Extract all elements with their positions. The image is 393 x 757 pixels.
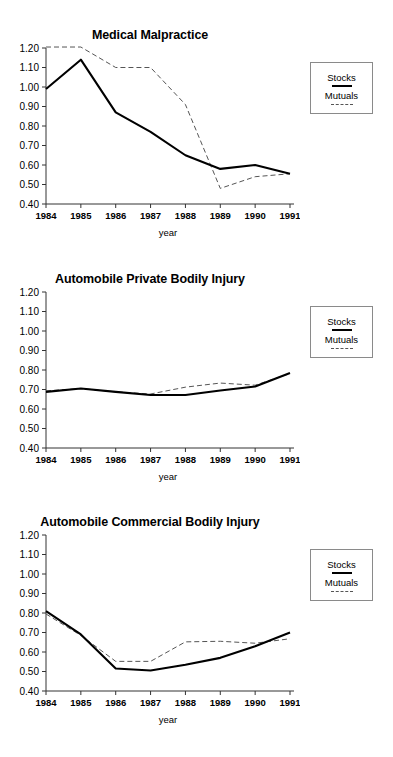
legend-label-stocks: Stocks bbox=[327, 559, 356, 570]
x-axis-tick-label: 1989 bbox=[210, 697, 231, 708]
chart-block-medical-malpractice: Medical Malpractice 0.400.500.600.700.80… bbox=[0, 28, 393, 253]
chart-plot-area: 0.400.500.600.700.800.901.001.101.201984… bbox=[0, 28, 300, 253]
legend-entry-stocks: Stocks bbox=[311, 559, 372, 577]
series-line-stocks bbox=[46, 611, 290, 670]
x-axis-tick-label: 1988 bbox=[175, 210, 196, 221]
x-axis-tick-label: 1989 bbox=[210, 454, 231, 465]
x-axis-tick-label: 1991 bbox=[279, 210, 300, 221]
legend-label-mutuals: Mutuals bbox=[325, 334, 358, 345]
y-axis-tick-label: 0.70 bbox=[20, 140, 40, 151]
y-axis-tick-label: 1.20 bbox=[20, 530, 40, 541]
legend-swatch-dashed-icon bbox=[331, 591, 353, 592]
y-axis-tick-label: 0.80 bbox=[20, 608, 40, 619]
x-axis-tick-label: 1986 bbox=[105, 454, 126, 465]
y-axis-tick-label: 0.80 bbox=[20, 365, 40, 376]
y-axis-tick-label: 0.60 bbox=[20, 647, 40, 658]
x-axis-tick-label: 1984 bbox=[35, 454, 57, 465]
y-axis-tick-label: 1.10 bbox=[20, 549, 40, 560]
x-axis-tick-label: 1988 bbox=[175, 697, 196, 708]
chart-legend: Stocks Mutuals bbox=[310, 549, 373, 601]
x-axis-tick-label: 1990 bbox=[245, 210, 266, 221]
legend-label-mutuals: Mutuals bbox=[325, 577, 358, 588]
x-axis-tick-label: 1987 bbox=[140, 697, 161, 708]
legend-entry-mutuals: Mutuals bbox=[311, 334, 372, 349]
x-axis-tick-label: 1984 bbox=[35, 697, 57, 708]
y-axis-tick-label: 1.00 bbox=[20, 326, 40, 337]
y-axis-tick-label: 1.00 bbox=[20, 569, 40, 580]
y-axis-tick-label: 1.10 bbox=[20, 306, 40, 317]
chart-legend: Stocks Mutuals bbox=[310, 62, 373, 114]
legend-label-mutuals: Mutuals bbox=[325, 90, 358, 101]
x-axis-tick-label: 1985 bbox=[70, 697, 92, 708]
x-axis-tick-label: 1985 bbox=[70, 210, 92, 221]
y-axis-tick-label: 1.20 bbox=[20, 43, 40, 54]
y-axis-tick-label: 0.40 bbox=[20, 443, 40, 454]
y-axis-tick-label: 0.80 bbox=[20, 121, 40, 132]
legend-swatch-dashed-icon bbox=[331, 348, 353, 349]
x-axis-tick-label: 1988 bbox=[175, 454, 196, 465]
legend-entry-mutuals: Mutuals bbox=[311, 90, 372, 105]
y-axis-tick-label: 0.70 bbox=[20, 627, 40, 638]
chart-block-auto-commercial-bodily-injury: Automobile Commercial Bodily Injury 0.40… bbox=[0, 515, 393, 740]
x-axis-tick-label: 1989 bbox=[210, 210, 231, 221]
x-axis-tick-label: 1984 bbox=[35, 210, 57, 221]
chart-plot-area: 0.400.500.600.700.800.901.001.101.201984… bbox=[0, 515, 300, 740]
y-axis-tick-label: 0.50 bbox=[20, 179, 40, 190]
x-axis-title: year bbox=[159, 227, 177, 238]
x-axis-tick-label: 1986 bbox=[105, 697, 126, 708]
x-axis-tick-label: 1991 bbox=[279, 454, 300, 465]
y-axis-tick-label: 0.90 bbox=[20, 345, 40, 356]
legend-swatch-solid-icon bbox=[332, 572, 352, 574]
legend-entry-mutuals: Mutuals bbox=[311, 577, 372, 592]
y-axis-tick-label: 0.90 bbox=[20, 588, 40, 599]
chart-legend: Stocks Mutuals bbox=[310, 306, 373, 358]
series-line-mutuals bbox=[46, 614, 290, 661]
x-axis-tick-label: 1985 bbox=[70, 454, 92, 465]
series-line-stocks bbox=[46, 373, 290, 395]
y-axis-tick-label: 0.40 bbox=[20, 686, 40, 697]
x-axis-title: year bbox=[159, 471, 177, 482]
legend-swatch-solid-icon bbox=[332, 85, 352, 87]
x-axis-tick-label: 1986 bbox=[105, 210, 126, 221]
x-axis-tick-label: 1991 bbox=[279, 697, 300, 708]
y-axis-tick-label: 0.60 bbox=[20, 160, 40, 171]
y-axis-tick-label: 0.40 bbox=[20, 199, 40, 210]
y-axis-tick-label: 0.90 bbox=[20, 101, 40, 112]
chart-plot-area: 0.400.500.600.700.800.901.001.101.201984… bbox=[0, 272, 300, 497]
series-line-mutuals bbox=[46, 47, 290, 188]
x-axis-tick-label: 1990 bbox=[245, 697, 266, 708]
y-axis-tick-label: 0.50 bbox=[20, 666, 40, 677]
legend-label-stocks: Stocks bbox=[327, 72, 356, 83]
y-axis-tick-label: 1.20 bbox=[20, 287, 40, 298]
x-axis-tick-label: 1987 bbox=[140, 454, 161, 465]
series-line-stocks bbox=[46, 60, 290, 174]
legend-entry-stocks: Stocks bbox=[311, 72, 372, 90]
y-axis-tick-label: 1.10 bbox=[20, 62, 40, 73]
x-axis-title: year bbox=[159, 714, 177, 725]
y-axis-tick-label: 0.50 bbox=[20, 423, 40, 434]
series-line-mutuals bbox=[46, 374, 290, 394]
y-axis-tick-label: 1.00 bbox=[20, 82, 40, 93]
legend-swatch-dashed-icon bbox=[331, 104, 353, 105]
legend-entry-stocks: Stocks bbox=[311, 316, 372, 334]
legend-swatch-solid-icon bbox=[332, 329, 352, 331]
y-axis-tick-label: 0.70 bbox=[20, 384, 40, 395]
legend-label-stocks: Stocks bbox=[327, 316, 356, 327]
x-axis-tick-label: 1990 bbox=[245, 454, 266, 465]
chart-block-auto-private-bodily-injury: Automobile Private Bodily Injury 0.400.5… bbox=[0, 272, 393, 497]
y-axis-tick-label: 0.60 bbox=[20, 404, 40, 415]
x-axis-tick-label: 1987 bbox=[140, 210, 161, 221]
